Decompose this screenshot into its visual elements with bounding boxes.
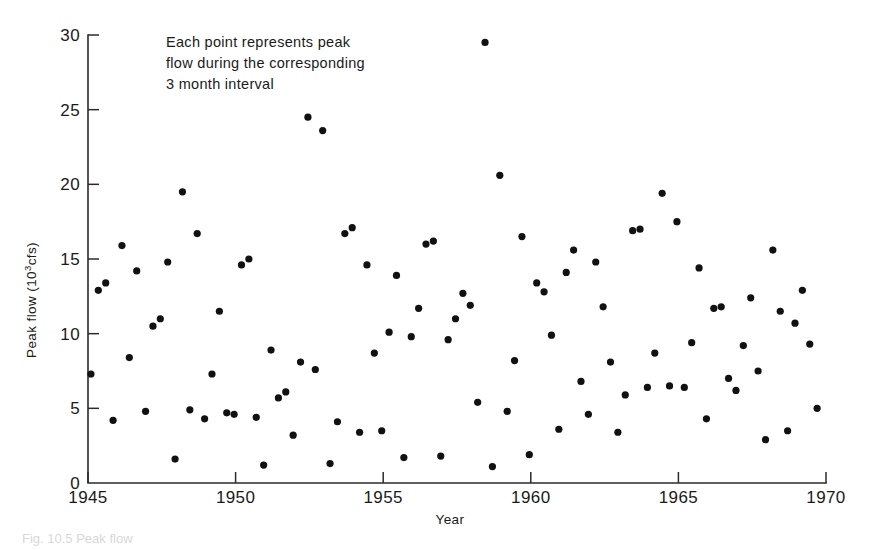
figure-caption: Fig. 10.5 Peak flow: [0, 528, 884, 550]
data-point: [747, 294, 754, 301]
x-axis-ticks: 194519501955196019651970: [68, 472, 845, 507]
data-point: [710, 305, 717, 312]
data-point: [703, 415, 710, 422]
data-point: [341, 230, 348, 237]
data-point: [459, 290, 466, 297]
data-point: [614, 429, 621, 436]
data-point: [481, 39, 488, 46]
data-point: [275, 394, 282, 401]
data-point: [769, 246, 776, 253]
data-point: [762, 436, 769, 443]
data-point: [784, 427, 791, 434]
data-point: [688, 339, 695, 346]
scatter-plot: 051015202530 194519501955196019651970 Pe…: [0, 0, 884, 550]
x-tick-label-1950: 1950: [216, 488, 255, 507]
plot-axes: [88, 35, 826, 483]
y-axis-ticks: 051015202530: [60, 26, 99, 493]
y-axis-title: Peak flow (103cfs): [22, 242, 39, 358]
data-point: [87, 370, 94, 377]
data-point: [452, 315, 459, 322]
data-point: [592, 258, 599, 265]
figure-caption-text: Fig. 10.5 Peak flow: [0, 528, 884, 550]
data-point: [201, 415, 208, 422]
x-tick-label-1960: 1960: [511, 488, 550, 507]
data-point: [253, 414, 260, 421]
data-point: [231, 411, 238, 418]
data-point: [149, 323, 156, 330]
x-tick-label-1965: 1965: [659, 488, 698, 507]
data-point: [267, 346, 274, 353]
data-point: [651, 349, 658, 356]
data-point: [695, 264, 702, 271]
annotation-line-1: Each point represents peak: [166, 34, 351, 50]
data-point: [164, 258, 171, 265]
data-point: [673, 218, 680, 225]
data-point: [732, 387, 739, 394]
data-point: [740, 342, 747, 349]
data-point: [126, 354, 133, 361]
annotation-line-3: 3 month interval: [166, 76, 274, 92]
data-point: [179, 188, 186, 195]
data-point: [245, 255, 252, 262]
data-point: [577, 378, 584, 385]
data-point: [548, 332, 555, 339]
data-point: [102, 279, 109, 286]
y-tick-label-10: 10: [60, 325, 80, 344]
data-point: [186, 406, 193, 413]
data-point: [585, 411, 592, 418]
data-point: [445, 336, 452, 343]
data-point: [644, 384, 651, 391]
data-point: [95, 287, 102, 294]
data-point: [216, 308, 223, 315]
data-point: [238, 261, 245, 268]
data-point: [518, 233, 525, 240]
data-point: [349, 224, 356, 231]
data-point: [118, 242, 125, 249]
x-tick-label-1970: 1970: [806, 488, 845, 507]
data-point: [496, 172, 503, 179]
data-point: [378, 427, 385, 434]
data-point: [806, 341, 813, 348]
data-point: [629, 227, 636, 234]
data-point: [326, 460, 333, 467]
data-point: [489, 463, 496, 470]
data-point: [297, 358, 304, 365]
data-point: [415, 305, 422, 312]
figure-container: 051015202530 194519501955196019651970 Pe…: [0, 0, 884, 550]
y-tick-label-30: 30: [60, 26, 80, 45]
data-point: [474, 399, 481, 406]
data-point: [386, 329, 393, 336]
data-point: [194, 230, 201, 237]
data-point: [814, 405, 821, 412]
data-point: [563, 269, 570, 276]
data-point: [533, 279, 540, 286]
data-point: [718, 303, 725, 310]
data-point: [319, 127, 326, 134]
data-point: [600, 303, 607, 310]
data-point: [799, 287, 806, 294]
data-point: [304, 114, 311, 121]
data-point: [666, 382, 673, 389]
data-point: [526, 451, 533, 458]
data-point: [777, 308, 784, 315]
data-point: [437, 453, 444, 460]
data-point: [540, 288, 547, 295]
data-point: [363, 261, 370, 268]
y-tick-label-20: 20: [60, 175, 80, 194]
x-tick-label-1945: 1945: [68, 488, 107, 507]
data-point: [133, 267, 140, 274]
data-point: [622, 391, 629, 398]
annotation-line-2: flow during the corresponding: [166, 55, 365, 71]
data-point: [393, 272, 400, 279]
data-point: [791, 320, 798, 327]
data-point: [555, 426, 562, 433]
data-point: [570, 246, 577, 253]
annotation-block: Each point represents peak flow during t…: [166, 34, 365, 92]
data-point: [171, 456, 178, 463]
y-tick-label-25: 25: [60, 101, 80, 120]
data-point: [504, 408, 511, 415]
data-point: [223, 409, 230, 416]
data-point: [400, 454, 407, 461]
data-point: [659, 190, 666, 197]
data-point: [430, 237, 437, 244]
